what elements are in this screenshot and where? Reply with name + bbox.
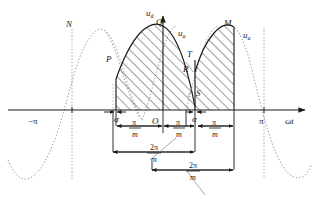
point-label-P: P xyxy=(105,54,112,64)
point-label-R: R xyxy=(182,64,189,74)
y-axis-label: ud xyxy=(146,8,155,19)
svg-text:π: π xyxy=(176,118,180,127)
dim-label-2pi-over-m-1: 2π m xyxy=(147,143,161,164)
dim-label-pi-over-m-1: π m xyxy=(129,118,141,139)
curve-label-ua-right: ua xyxy=(243,30,251,41)
point-label-M: M xyxy=(223,18,232,28)
dim-label-2pi-over-m-2: 2π m xyxy=(186,161,200,182)
svg-text:m: m xyxy=(190,173,196,182)
origin-label: O xyxy=(152,116,159,126)
svg-text:m: m xyxy=(212,130,218,139)
dim-label-pi-over-m-2: π m xyxy=(173,118,185,139)
angle-label-alpha-right: α xyxy=(192,114,197,124)
point-label-T: T xyxy=(187,49,193,59)
point-label-S: S xyxy=(196,88,201,98)
figure-canvas: ud ωt O −π π ua ua N P Q T R S M α α π m… xyxy=(0,0,318,200)
conduction-area-right xyxy=(195,25,234,110)
waveform-diagram-svg: ud ωt O −π π ua ua N P Q T R S M α α π m… xyxy=(0,0,318,200)
dim-label-pi-over-m-3: π m xyxy=(209,118,221,139)
curve-label-ua-left: ua xyxy=(178,28,186,39)
point-label-N: N xyxy=(65,19,73,29)
point-label-Q: Q xyxy=(156,17,163,27)
svg-text:m: m xyxy=(151,155,157,164)
svg-text:2π: 2π xyxy=(150,143,158,152)
svg-text:π: π xyxy=(132,118,136,127)
tick-label-pi: π xyxy=(259,116,264,126)
angle-label-alpha-left: α xyxy=(114,114,119,124)
svg-text:m: m xyxy=(132,130,138,139)
x-axis-label: ωt xyxy=(285,116,294,126)
svg-text:2π: 2π xyxy=(189,161,197,170)
svg-text:π: π xyxy=(212,118,216,127)
svg-text:m: m xyxy=(176,130,182,139)
tick-label-neg-pi: −π xyxy=(28,116,38,126)
